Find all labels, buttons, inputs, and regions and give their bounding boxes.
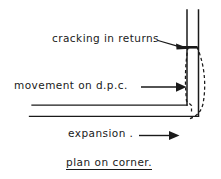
dashed-deflection-outer [188,47,205,119]
wall-outline-group [30,10,199,116]
annotation-label-cracking: cracking in returns [52,33,159,44]
leader-expansion-group [139,131,180,140]
deflection-curves-group [185,47,204,119]
leader-movement-group [141,82,187,91]
figure-plan-on-corner: cracking in returns movement on d.p.c. e… [0,0,221,179]
figure-caption: plan on corner. [66,157,152,170]
leader-arrowhead-expansion [169,131,180,140]
leader-line-cracking [158,41,177,46]
leader-cracking-group [158,41,177,46]
annotation-label-movement: movement on d.p.c. [14,80,128,91]
annotation-label-expansion: expansion . [68,128,133,139]
